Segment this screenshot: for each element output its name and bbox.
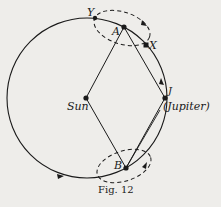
label-jupiter-name: (Jupiter) xyxy=(163,101,210,112)
ellipse-b-arrow-icon xyxy=(142,162,147,169)
ellipse-a-arrow-icon xyxy=(141,20,147,26)
label-b: B xyxy=(114,160,122,171)
orbit-arrow-icon xyxy=(159,78,164,85)
label-jupiter-letter: J xyxy=(168,86,172,96)
point-a xyxy=(121,24,126,29)
label-x: X xyxy=(149,40,157,51)
label-a: A xyxy=(112,26,120,37)
line-b-j-2 xyxy=(126,110,160,168)
label-sun: Sun xyxy=(67,101,89,112)
label-y: Y xyxy=(87,7,94,18)
line-sun-b xyxy=(86,98,126,168)
point-b xyxy=(123,165,128,170)
figure-caption: Fig. 12 xyxy=(98,185,134,195)
point-x xyxy=(144,43,149,48)
